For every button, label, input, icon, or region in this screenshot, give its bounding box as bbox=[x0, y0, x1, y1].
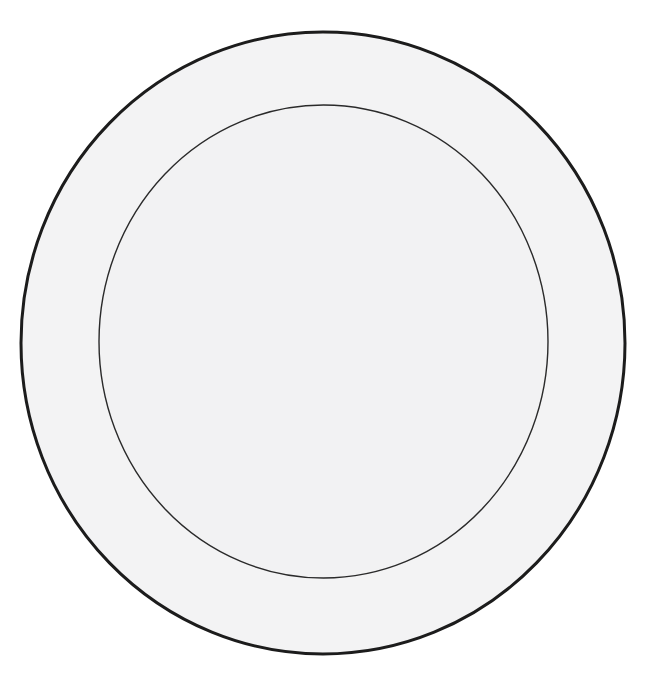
plate-drawing bbox=[0, 0, 645, 673]
plate-well-outline bbox=[99, 105, 548, 578]
figure-canvas: 010021008100710001001001900510 Scanned b… bbox=[0, 0, 645, 673]
